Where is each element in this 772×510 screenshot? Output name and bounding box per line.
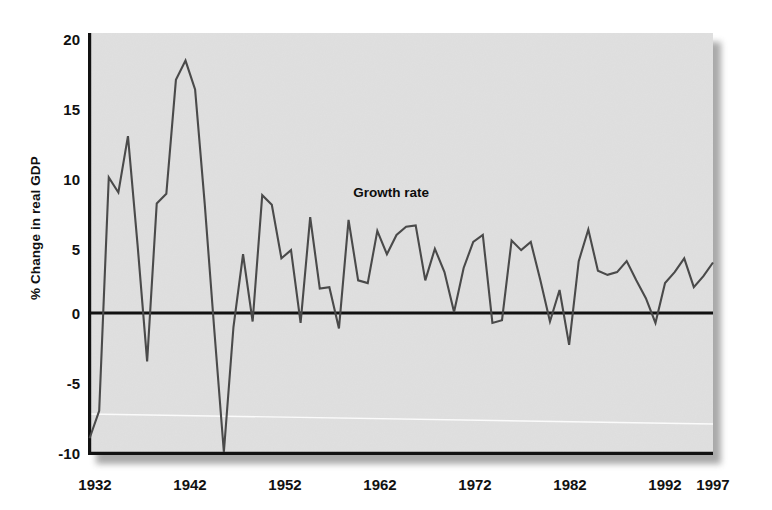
- plot-grain-overlay: [88, 33, 713, 455]
- y-tick-label: 0: [72, 305, 80, 322]
- x-tick-label: 1992: [648, 476, 681, 493]
- x-tick-label: 1962: [363, 476, 396, 493]
- chart-canvas: 20 15 10 5 0 -5 -10 1932 1942 1952 1962 …: [0, 0, 772, 510]
- x-tick-label: 1932: [78, 476, 111, 493]
- y-axis-title: % Change in real GDP: [28, 156, 43, 300]
- growth-rate-annotation: Growth rate: [353, 185, 429, 200]
- y-tick-label: 15: [63, 101, 80, 118]
- y-tick-label: -5: [67, 375, 80, 392]
- y-tick-label: -10: [58, 445, 80, 462]
- x-tick-label: 1942: [173, 476, 206, 493]
- y-tick-label: 5: [72, 241, 80, 258]
- x-axis-ticks: 1932 1942 1952 1962 1972 1982 1992 1997: [78, 476, 729, 493]
- x-tick-label: 1952: [268, 476, 301, 493]
- y-axis-ticks: 20 15 10 5 0 -5 -10: [58, 31, 80, 462]
- y-tick-label: 10: [63, 171, 80, 188]
- gdp-growth-chart: 20 15 10 5 0 -5 -10 1932 1942 1952 1962 …: [0, 0, 772, 510]
- y-tick-label: 20: [63, 31, 80, 48]
- x-tick-label: 1972: [458, 476, 491, 493]
- x-tick-label: 1997: [696, 476, 729, 493]
- x-tick-label: 1982: [553, 476, 586, 493]
